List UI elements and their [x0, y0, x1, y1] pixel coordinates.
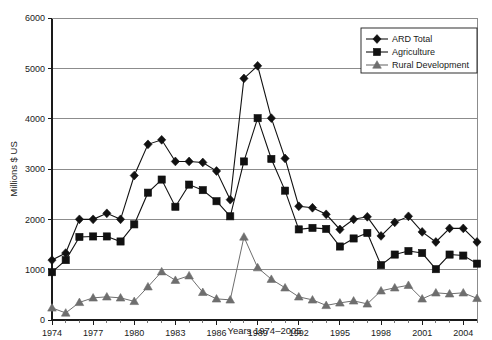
x-axis-tick-label: 1986 [207, 328, 227, 338]
legend-label: Rural Development [392, 60, 470, 70]
data-point-square [446, 251, 453, 258]
x-axis-tick-label: 1977 [83, 328, 103, 338]
y-axis-tick-label: 1000 [25, 265, 45, 275]
y-axis-tick-label: 4000 [25, 114, 45, 124]
x-axis-tick-label: 1995 [330, 328, 350, 338]
data-point-square [199, 187, 206, 194]
data-point-square [62, 257, 69, 264]
y-axis-title: Millions $ US [8, 141, 19, 196]
legend-item-agriculture[interactable]: Agriculture [366, 47, 435, 57]
data-point-square [227, 213, 234, 220]
chart-figure: 0100020003000400050006000 19741977198019… [0, 0, 492, 340]
y-axis-tick-label: 0 [40, 315, 45, 325]
data-point-square [350, 235, 357, 242]
data-point-square [295, 226, 302, 233]
data-point-square [268, 155, 275, 162]
x-axis-tick-label: 1980 [124, 328, 144, 338]
y-axis-tick-label: 2000 [25, 215, 45, 225]
x-axis-tick-label: 1983 [165, 328, 185, 338]
data-point-square [473, 260, 480, 267]
chart-legend: ARD TotalAgricultureRural Development [361, 28, 477, 73]
data-point-square [336, 243, 343, 250]
y-axis-tick-label: 6000 [25, 13, 45, 23]
x-axis-tick-label: 1998 [371, 328, 391, 338]
data-point-square [405, 247, 412, 254]
x-axis-tick-label: 2001 [412, 328, 432, 338]
data-point-square [144, 189, 151, 196]
x-axis-tick-label: 2004 [453, 328, 473, 338]
x-axis-title: Years 1974–2005 [227, 325, 301, 336]
data-point-square [391, 251, 398, 258]
data-point-square [281, 187, 288, 194]
y-axis-tick-label: 3000 [25, 164, 45, 174]
data-point-square [48, 269, 55, 276]
legend-label: ARD Total [392, 34, 432, 44]
x-axis-tick-label: 1974 [42, 328, 62, 338]
data-point-square [185, 181, 192, 188]
data-point-square [213, 198, 220, 205]
data-point-square [90, 233, 97, 240]
data-point-square [373, 48, 380, 55]
data-point-square [158, 176, 165, 183]
data-point-square [76, 233, 83, 240]
legend-label: Agriculture [392, 47, 435, 57]
data-point-square [131, 221, 138, 228]
data-point-square [309, 224, 316, 231]
data-point-square [364, 229, 371, 236]
line-chart: 0100020003000400050006000 19741977198019… [0, 0, 492, 340]
data-point-square [172, 203, 179, 210]
data-point-square [432, 266, 439, 273]
data-point-square [254, 115, 261, 122]
data-point-square [323, 225, 330, 232]
data-point-square [460, 252, 467, 259]
data-point-square [240, 158, 247, 165]
data-point-square [103, 233, 110, 240]
data-point-square [117, 238, 124, 245]
data-point-square [419, 249, 426, 256]
data-point-square [377, 262, 384, 269]
y-axis-tick-label: 5000 [25, 64, 45, 74]
